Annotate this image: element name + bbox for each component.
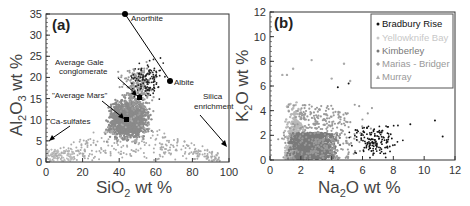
x-axis-label-b: Na2O wt % bbox=[318, 178, 401, 199]
panel-label-a: (a) bbox=[52, 16, 70, 33]
silica-arrow bbox=[200, 115, 226, 145]
y-tick-label: 5 bbox=[36, 135, 42, 147]
legend-marker-kimberley bbox=[377, 50, 380, 53]
x-tick-label: 0 bbox=[43, 166, 49, 178]
albite-label: Albite bbox=[174, 78, 195, 87]
x-tick-label: 10 bbox=[418, 164, 430, 176]
legend-marker-yellowknife bbox=[377, 37, 380, 40]
panel-b: 024681012024681012 (b) Bradbury Rise Yel… bbox=[233, 6, 461, 199]
panel-label-b: (b) bbox=[274, 14, 293, 31]
gale-label-line2: conglomerate bbox=[59, 67, 108, 76]
y-tick-label: 35 bbox=[30, 8, 42, 20]
y-axis-label-b: K2O wt % bbox=[233, 50, 254, 122]
gale-conglomerate-point bbox=[137, 95, 142, 100]
y-tick-label: 4 bbox=[260, 105, 266, 117]
x-tick-label: 4 bbox=[329, 164, 335, 176]
legend-marias-bridger: Marias - Bridger bbox=[382, 58, 450, 69]
y-tick-label: 0 bbox=[260, 154, 266, 166]
y-tick-label: 20 bbox=[30, 71, 42, 83]
x-tick-label: 12 bbox=[449, 164, 461, 176]
average-mars-label: "Average Mars" bbox=[52, 91, 107, 100]
y-axis-label-a: Al2O3 wt % bbox=[7, 54, 28, 136]
x-tick-label: 0 bbox=[267, 164, 273, 176]
ca-sulfate-arrow bbox=[51, 126, 70, 139]
average-mars-point bbox=[124, 117, 129, 122]
legend-bradbury-rise: Bradbury Rise bbox=[382, 18, 442, 29]
x-tick-label: 20 bbox=[76, 166, 88, 178]
x-tick-label: 6 bbox=[359, 164, 365, 176]
x-tick-label: 8 bbox=[390, 164, 396, 176]
y-tick-label: 6 bbox=[260, 80, 266, 92]
x-axis-label-a: SiO2 wt % bbox=[96, 178, 172, 199]
silica-label-line2: enrichment bbox=[194, 102, 234, 111]
legend: Bradbury Rise Yellowknife Bay Kimberley … bbox=[371, 14, 453, 88]
x-tick-label: 60 bbox=[150, 166, 162, 178]
y-tick-label: 10 bbox=[254, 31, 266, 43]
y-tick-label: 12 bbox=[254, 6, 266, 18]
y-tick-label: 30 bbox=[30, 29, 42, 41]
legend-yellowknife-bay: Yellowknife Bay bbox=[382, 32, 448, 43]
panel-a: 02040608010005101520253035 (a) Anorthite… bbox=[7, 8, 238, 199]
x-tick-label: 80 bbox=[186, 166, 198, 178]
ca-sulfates-label: Ca-sulfates bbox=[50, 117, 90, 126]
ca-sulfate-arrowhead bbox=[49, 135, 55, 141]
legend-murray: Murray bbox=[382, 71, 412, 82]
anorthite-label: Anorthite bbox=[131, 14, 164, 23]
albite-point bbox=[167, 78, 173, 84]
y-tick-label: 25 bbox=[30, 50, 42, 62]
x-tick-label: 100 bbox=[220, 166, 238, 178]
figure: 02040608010005101520253035 (a) Anorthite… bbox=[0, 0, 470, 206]
x-tick-label: 40 bbox=[113, 166, 125, 178]
legend-marker-bradbury bbox=[377, 23, 380, 26]
y-tick-label: 10 bbox=[30, 114, 42, 126]
y-tick-label: 2 bbox=[260, 129, 266, 141]
silica-label-line1: Silica bbox=[203, 92, 223, 101]
y-tick-label: 15 bbox=[30, 93, 42, 105]
y-tick-label: 0 bbox=[36, 156, 42, 168]
chart-svg: 02040608010005101520253035 (a) Anorthite… bbox=[0, 0, 470, 206]
legend-kimberley: Kimberley bbox=[382, 45, 424, 56]
silica-arrowhead bbox=[221, 140, 227, 147]
gale-label-line1: Average Gale bbox=[55, 58, 104, 67]
x-tick-label: 2 bbox=[298, 164, 304, 176]
y-tick-label: 8 bbox=[260, 55, 266, 67]
